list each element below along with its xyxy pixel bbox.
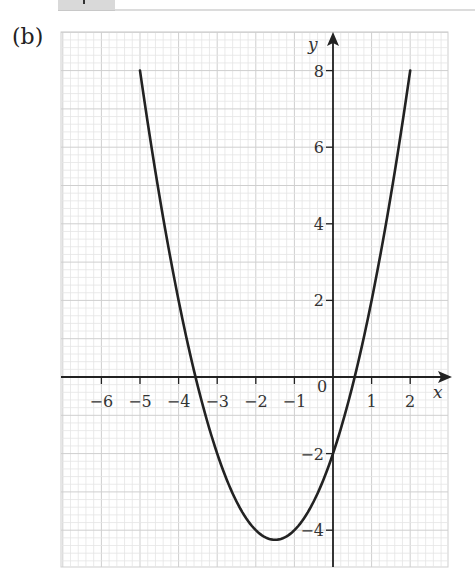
- parabola-chart: −6−5−4−3−2−11208642−2−4 x y: [0, 0, 475, 579]
- svg-text:−1: −1: [283, 392, 307, 411]
- svg-text:−4: −4: [300, 521, 324, 540]
- svg-text:−3: −3: [205, 392, 229, 411]
- svg-text:−5: −5: [128, 392, 152, 411]
- svg-text:−6: −6: [90, 392, 114, 411]
- svg-text:2: 2: [314, 291, 324, 310]
- svg-text:6: 6: [314, 138, 324, 157]
- grid: [61, 32, 448, 567]
- svg-text:4: 4: [314, 215, 324, 234]
- svg-text:1: 1: [367, 392, 377, 411]
- svg-text:0: 0: [317, 377, 327, 396]
- svg-text:8: 8: [314, 62, 324, 81]
- svg-text:−4: −4: [167, 392, 191, 411]
- svg-text:−2: −2: [300, 445, 324, 464]
- x-axis-label: x: [433, 382, 443, 402]
- svg-text:−2: −2: [244, 392, 268, 411]
- y-axis-label: y: [307, 34, 318, 54]
- svg-text:2: 2: [405, 392, 415, 411]
